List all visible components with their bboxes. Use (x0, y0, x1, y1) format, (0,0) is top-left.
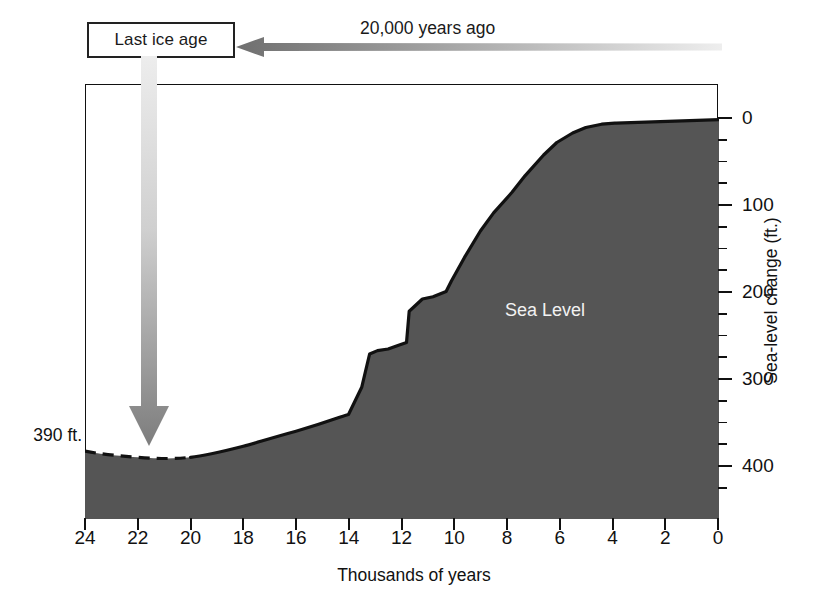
x-tick-label: 0 (713, 527, 724, 549)
y-tick-minor (718, 139, 727, 141)
y-tick-major (718, 117, 732, 119)
x-tick-label: 16 (285, 527, 306, 549)
y-tick-minor (718, 400, 727, 402)
y-tick-minor (718, 356, 727, 358)
x-tick-label: 14 (338, 527, 359, 549)
left-arrow-icon (236, 36, 722, 58)
x-tick-label: 8 (502, 527, 513, 549)
y-tick-minor (718, 248, 727, 250)
x-tick-label: 6 (554, 527, 565, 549)
sea-level-chart-figure: Last ice age 20,000 years ago (0, 0, 828, 606)
sea-level-series-label: Sea Level (505, 300, 585, 321)
y-tick-major (718, 291, 732, 293)
last-ice-age-box: Last ice age (87, 22, 235, 58)
y-tick-minor (718, 487, 727, 489)
x-tick-label: 10 (444, 527, 465, 549)
y-tick-minor (718, 269, 727, 271)
y-tick-major (718, 378, 732, 380)
y-tick-minor (718, 335, 727, 337)
x-tick-label: 24 (74, 527, 95, 549)
y-axis-title: Sea-level change (ft.) (757, 120, 785, 480)
y-axis-title-text: Sea-level change (ft.) (761, 217, 782, 383)
last-ice-age-label: Last ice age (115, 30, 208, 50)
x-axis-title: Thousands of years (0, 565, 828, 586)
sea-level-area-curve (85, 84, 719, 519)
y-tick-major (718, 465, 732, 467)
x-tick-label: 4 (607, 527, 618, 549)
y-tick-minor (718, 443, 727, 445)
lowstand-depth-callout: 390 ft. (10, 425, 82, 446)
x-tick-label: 20 (180, 527, 201, 549)
x-tick-label: 18 (233, 527, 254, 549)
x-tick-label: 12 (391, 527, 412, 549)
y-tick-minor (718, 313, 727, 315)
x-tick-label: 22 (127, 527, 148, 549)
y-tick-major (718, 204, 732, 206)
y-tick-minor (718, 226, 727, 228)
y-tick-minor (718, 161, 727, 163)
y-tick-label: 0 (742, 107, 753, 129)
y-tick-minor (718, 422, 727, 424)
y-tick-minor (718, 182, 727, 184)
x-tick-label: 2 (660, 527, 671, 549)
